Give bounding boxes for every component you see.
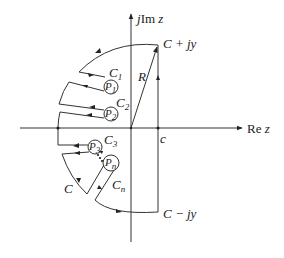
radius-label: R [138, 70, 146, 83]
pole-pn-label: Pn [105, 157, 116, 171]
contour-diagram [0, 0, 284, 258]
pole-p2-label: P2 [105, 108, 116, 122]
contour-c3-label: C3 [104, 133, 117, 149]
pole-p3-label: P3 [89, 141, 100, 155]
pole-p1-label: P1 [105, 81, 116, 95]
contour-cn-label: Cn [112, 178, 125, 194]
real-axis-label: Re z [247, 122, 270, 135]
point-bottom-label: C − jy [163, 207, 196, 220]
radius-line [131, 47, 157, 128]
imaginary-axis-label: jIm z [137, 12, 163, 25]
main-contour-label: C [64, 182, 73, 195]
imag-label-z: z [158, 11, 163, 26]
lower-arc [95, 200, 158, 213]
contour-c2-label: C2 [116, 96, 129, 112]
imag-label-im: Im [141, 11, 155, 26]
real-label-re: Re [247, 121, 261, 136]
real-label-z: z [265, 121, 270, 136]
point-c-label: c [160, 132, 166, 145]
point-top-label: C + jy [163, 37, 196, 50]
